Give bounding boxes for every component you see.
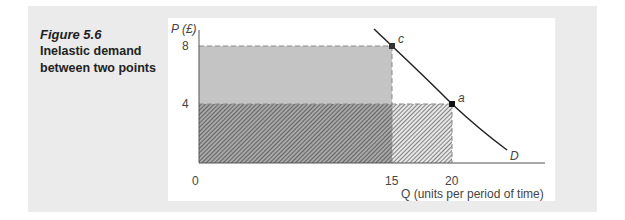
curve-label-d: D: [510, 149, 519, 163]
chart-panel: P (£) 8 4 0 15 20 Q (units per period of…: [168, 18, 555, 201]
x-tick-15: 15: [385, 174, 399, 188]
x-axis-label: Q (units per period of time): [401, 187, 544, 201]
point-c-label: c: [398, 32, 404, 46]
y-axis-label: P (£): [171, 22, 197, 36]
point-c-marker: [389, 43, 395, 49]
figure-caption: Figure 5.6 Inelastic demand between two …: [40, 27, 156, 77]
demand-chart: P (£) 8 4 0 15 20 Q (units per period of…: [168, 18, 555, 201]
y-tick-8: 8: [182, 39, 189, 53]
revenue-area-a-extra: [392, 104, 452, 163]
figure-number: Figure 5.6: [40, 27, 156, 43]
point-a-marker: [449, 101, 455, 107]
x-tick-20: 20: [445, 174, 459, 188]
y-tick-4: 4: [182, 97, 189, 111]
figure-title-line1: Inelastic demand: [40, 43, 156, 60]
origin-label: 0: [192, 174, 199, 188]
revenue-overlap-area: [199, 104, 392, 163]
point-a-label: a: [458, 91, 465, 105]
revenue-area-c: [199, 46, 392, 104]
figure-title-line2: between two points: [40, 60, 156, 77]
